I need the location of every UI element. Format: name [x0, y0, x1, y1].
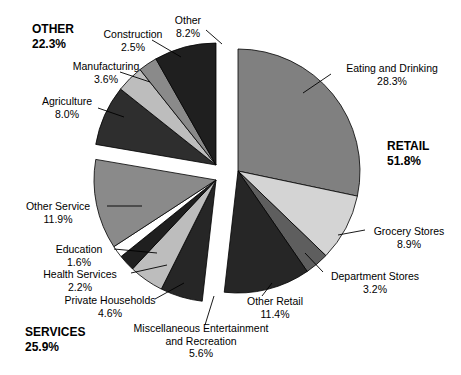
slice-label-other-retail: Other Retail 11.4% [232, 295, 318, 320]
group-label-services: SERVICES 25.9% [25, 325, 85, 354]
slice-label-manufacturing: Manufacturing 3.6% [60, 60, 152, 85]
slice-label-eating-and-drinking: Eating and Drinking 28.3% [333, 62, 451, 87]
group-label-other-pct: 22.3% [32, 37, 74, 52]
slice-label-department-stores-name: Department Stores [315, 270, 435, 283]
slice-label-misc-entertainment-line2: and Recreation [116, 335, 286, 348]
slice-label-manufacturing-pct: 3.6% [60, 73, 152, 86]
group-label-other-name: OTHER [32, 22, 74, 37]
slice-label-department-stores-pct: 3.2% [315, 283, 435, 296]
slice-label-eating-and-drinking-pct: 28.3% [333, 75, 451, 88]
leader-misc-entertainment [205, 296, 214, 325]
slice-label-department-stores: Department Stores 3.2% [315, 270, 435, 295]
slice-label-agriculture: Agriculture 8.0% [28, 95, 106, 120]
slice-label-education-name: Education [44, 243, 114, 256]
slice-label-other-sector: Other 8.2% [160, 14, 216, 39]
slice-label-grocery-stores-name: Grocery Stores [362, 225, 456, 238]
slice-label-agriculture-name: Agriculture [28, 95, 106, 108]
slice-label-other-service-name: Other Service [12, 200, 104, 213]
slice-label-construction-pct: 2.5% [90, 41, 176, 54]
group-label-retail-name: RETAIL [387, 139, 429, 154]
slice-label-health-services: Health Services 2.2% [34, 268, 126, 293]
group-label-retail-pct: 51.8% [387, 154, 429, 169]
slice-label-other-retail-name: Other Retail [232, 295, 318, 308]
slice-label-health-services-name: Health Services [34, 268, 126, 281]
slice-label-misc-entertainment-line1: Miscellaneous Entertainment [116, 322, 286, 335]
slice-label-private-households: Private Households 4.6% [52, 294, 168, 319]
slice-label-other-sector-pct: 8.2% [160, 27, 216, 40]
slice-label-other-service-pct: 11.9% [12, 213, 104, 226]
slice-label-other-retail-pct: 11.4% [232, 308, 318, 321]
pie-chart-page: OTHER 22.3% RETAIL 51.8% SERVICES 25.9% … [0, 0, 461, 375]
slice-label-private-households-name: Private Households [52, 294, 168, 307]
group-label-other: OTHER 22.3% [32, 22, 74, 51]
group-label-services-name: SERVICES [25, 325, 85, 340]
slice-label-education: Education 1.6% [44, 243, 114, 268]
slice-label-eating-and-drinking-name: Eating and Drinking [333, 62, 451, 75]
slice-label-other-service: Other Service 11.9% [12, 200, 104, 225]
group-label-retail: RETAIL 51.8% [387, 139, 429, 168]
slice-label-manufacturing-name: Manufacturing [60, 60, 152, 73]
slice-label-health-services-pct: 2.2% [34, 281, 126, 294]
slice-label-grocery-stores: Grocery Stores 8.9% [362, 225, 456, 250]
slice-label-misc-entertainment-pct: 5.6% [116, 347, 286, 360]
slice-label-agriculture-pct: 8.0% [28, 108, 106, 121]
slice-label-grocery-stores-pct: 8.9% [362, 238, 456, 251]
slice-label-other-sector-name: Other [160, 14, 216, 27]
group-label-services-pct: 25.9% [25, 340, 85, 355]
slice-label-education-pct: 1.6% [44, 256, 114, 269]
slice-label-misc-entertainment: Miscellaneous Entertainment and Recreati… [116, 322, 286, 360]
slice-label-private-households-pct: 4.6% [52, 307, 168, 320]
